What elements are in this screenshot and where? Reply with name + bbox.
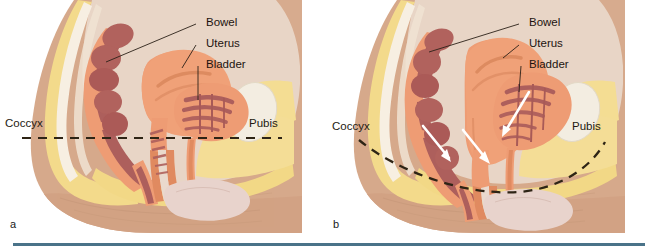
- panel-b: Bowel Uterus Bladder Coccyx Pubis b: [323, 0, 649, 240]
- label-uterus: Uterus: [529, 37, 563, 49]
- perineum-tissue: [483, 189, 573, 231]
- label-uterus: Uterus: [206, 37, 240, 49]
- label-bladder: Bladder: [529, 58, 569, 70]
- label-pubis: Pubis: [572, 120, 601, 132]
- figure-separator-rule: [13, 243, 645, 246]
- label-bowel: Bowel: [206, 16, 237, 28]
- label-bladder: Bladder: [206, 58, 246, 70]
- panel-letter-b: b: [333, 219, 339, 230]
- panel-a: Bowel Uterus Bladder Coccyx Pubis a: [0, 0, 326, 240]
- label-coccyx: Coccyx: [5, 117, 43, 129]
- panel-letter-a: a: [10, 219, 16, 230]
- figure-container: Bowel Uterus Bladder Coccyx Pubis a: [0, 0, 653, 252]
- label-pubis: Pubis: [249, 117, 278, 129]
- panel-a-illustration: Bowel Uterus Bladder Coccyx Pubis: [0, 0, 326, 240]
- panel-b-illustration: Bowel Uterus Bladder Coccyx Pubis: [323, 0, 649, 240]
- label-coccyx: Coccyx: [332, 120, 370, 132]
- label-bowel: Bowel: [529, 16, 560, 28]
